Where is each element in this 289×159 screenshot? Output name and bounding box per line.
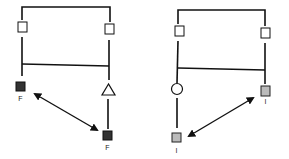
left-affected-square-2 <box>103 131 112 140</box>
left-top-connector <box>22 7 110 22</box>
right-middle-connector <box>178 68 265 70</box>
label-f-1: F <box>18 95 22 102</box>
label-i-bottom: I <box>176 147 178 154</box>
label-f-2: F <box>105 144 109 151</box>
right-carrier-square-bottom <box>172 133 181 142</box>
left-triangle-node <box>102 84 115 95</box>
left-double-arrow <box>35 94 97 130</box>
right-top-connector <box>178 10 265 26</box>
right-double-arrow <box>189 98 253 136</box>
left-parent-right-square <box>105 24 114 34</box>
right-carrier-square-mid <box>261 86 270 96</box>
left-pedigree: F F <box>16 7 115 151</box>
left-middle-connector <box>22 64 109 66</box>
right-left-vertical <box>177 41 178 83</box>
left-affected-square-1 <box>16 82 25 91</box>
right-parent-right-square <box>261 28 270 38</box>
left-parent-left-square <box>18 22 27 32</box>
right-parent-left-square <box>175 26 184 36</box>
label-i-mid: I <box>265 98 267 105</box>
right-circle-node <box>172 84 183 95</box>
pedigree-diagram: F F I I <box>0 0 289 159</box>
right-pedigree: I I <box>172 10 271 154</box>
